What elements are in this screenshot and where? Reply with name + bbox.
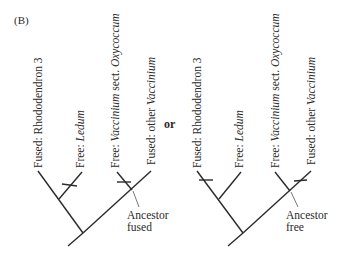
branch-ledum <box>219 172 241 199</box>
connector-or: or <box>164 117 176 131</box>
transition-mark-other-vaccinium <box>294 180 307 181</box>
root-branch <box>68 233 83 246</box>
ancestor-note-line2: fused <box>127 221 152 233</box>
branch-oxycoccum <box>275 172 290 191</box>
transition-mark-ledum <box>62 184 77 186</box>
ancestor-note-line2: free <box>286 221 304 233</box>
tip-label-vaccinium-oxycoccum: Free: Vaccinium sect. Oxycoccum <box>109 13 122 168</box>
tree-left: Fused: Rhododendron 3 Free: Ledum Free: … <box>32 13 169 246</box>
branch-oxycoccum <box>117 172 132 190</box>
tip-label-rhododendron: Fused: Rhododendron 3 <box>191 57 203 168</box>
tree-right: Fused: Rhododendron 3 Free: Ledum Free: … <box>191 13 328 246</box>
tip-label-ledum: Free: Ledum <box>233 110 245 168</box>
tip-label-vaccinium-oxycoccum: Free: Vaccinium sect. Oxycoccum <box>269 13 282 168</box>
ancestor-note-line1: Ancestor <box>286 209 328 221</box>
branch-rhododendron <box>38 171 83 233</box>
panel-label: (B) <box>14 14 29 27</box>
ancestor-pointer <box>133 191 139 207</box>
tip-label-rhododendron: Fused: Rhododendron 3 <box>32 57 44 168</box>
tip-label-other-vaccinium: Fused: other Vaccinium <box>145 57 157 165</box>
tip-label-other-vaccinium: Fused: other Vaccinium <box>305 57 317 165</box>
tip-label-ledum: Free: Ledum <box>74 110 86 168</box>
ancestor-note-line1: Ancestor <box>127 209 169 221</box>
root-branch <box>228 233 243 246</box>
ancestor-pointer <box>291 192 298 207</box>
phylogeny-figure: (B) Fused: Rhododendron 3 Free: Ledum Fr… <box>0 0 337 253</box>
